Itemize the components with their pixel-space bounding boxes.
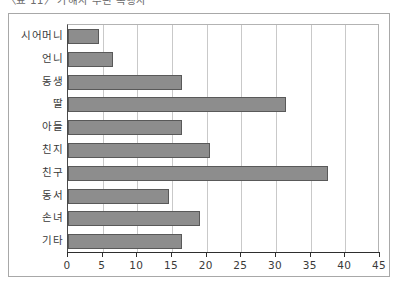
chart-screenshot: 〈표 11〉 가해자 주된 폭행자 시어머니언니동생딸아들친지친구동서손녀기타 … <box>0 0 397 284</box>
x-tick-mark <box>171 252 172 257</box>
bar <box>68 97 286 112</box>
x-tick-label: 0 <box>52 259 82 271</box>
x-tick-label: 40 <box>329 259 359 271</box>
x-tick-label: 25 <box>225 259 255 271</box>
category-label: 동생 <box>42 70 63 93</box>
x-tick-mark <box>67 252 68 257</box>
x-tick-label: 5 <box>87 259 117 271</box>
x-tick-mark <box>206 252 207 257</box>
category-label: 시어머니 <box>21 24 63 47</box>
bar <box>68 211 200 226</box>
x-tick-mark <box>102 252 103 257</box>
figure-caption: 〈표 11〉 가해자 주된 폭행자 <box>6 0 246 8</box>
gridline <box>345 25 346 252</box>
bar <box>68 120 182 135</box>
gridline <box>207 25 208 252</box>
category-axis-labels: 시어머니언니동생딸아들친지친구동서손녀기타 <box>11 24 63 252</box>
category-label: 친구 <box>42 161 63 184</box>
category-label: 손녀 <box>42 206 63 229</box>
bar <box>68 234 182 249</box>
bar <box>68 29 99 44</box>
bar <box>68 143 210 158</box>
x-tick-mark <box>310 252 311 257</box>
category-label: 친지 <box>42 138 63 161</box>
plot-wrapper: 시어머니언니동생딸아들친지친구동서손녀기타 051015202530354045 <box>67 24 379 256</box>
x-tick-mark <box>379 252 380 257</box>
x-axis-line <box>67 252 379 253</box>
chart-frame: 시어머니언니동생딸아들친지친구동서손녀기타 051015202530354045 <box>8 13 390 277</box>
x-tick-label: 10 <box>121 259 151 271</box>
category-label: 아들 <box>42 115 63 138</box>
category-label: 기타 <box>42 229 63 252</box>
gridline <box>311 25 312 252</box>
category-label: 딸 <box>53 92 63 115</box>
x-tick-label: 35 <box>295 259 325 271</box>
bar <box>68 189 169 204</box>
x-tick-mark <box>240 252 241 257</box>
bar <box>68 166 328 181</box>
x-tick-mark <box>344 252 345 257</box>
bar <box>68 75 182 90</box>
x-tick-label: 30 <box>260 259 290 271</box>
x-tick-label: 20 <box>191 259 221 271</box>
x-tick-mark <box>275 252 276 257</box>
bar <box>68 52 113 67</box>
x-tick-label: 45 <box>364 259 394 271</box>
x-tick-label: 15 <box>156 259 186 271</box>
x-tick-mark <box>136 252 137 257</box>
gridline <box>276 25 277 252</box>
category-label: 언니 <box>42 47 63 70</box>
gridline <box>241 25 242 252</box>
category-label: 동서 <box>42 184 63 207</box>
plot-area <box>67 24 379 252</box>
